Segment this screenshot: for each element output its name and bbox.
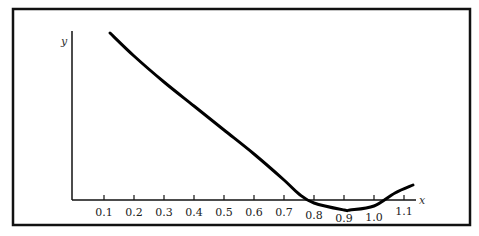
- y-axis-label: y: [60, 35, 68, 48]
- x-tick-label: 0.1: [95, 206, 113, 219]
- x-axis-label: x: [419, 194, 426, 207]
- x-tick-label: 0.3: [155, 206, 173, 219]
- x-tick-label: 0.9: [335, 212, 353, 225]
- x-tick-label: 0.6: [245, 206, 263, 219]
- data-curve: [110, 33, 413, 211]
- chart: y x 0.10.20.30.40.50.60.70.80.91.01.1: [0, 0, 479, 236]
- x-tick-label: 0.7: [275, 206, 293, 219]
- x-tick-label: 1.1: [395, 205, 413, 218]
- x-tick-label: 0.4: [185, 206, 203, 219]
- chart-frame: [13, 9, 470, 225]
- x-tick-label: 0.5: [215, 206, 233, 219]
- x-tick-label: 0.8: [305, 209, 323, 222]
- x-tick-label: 1.0: [365, 211, 383, 224]
- x-tick-label: 0.2: [125, 206, 143, 219]
